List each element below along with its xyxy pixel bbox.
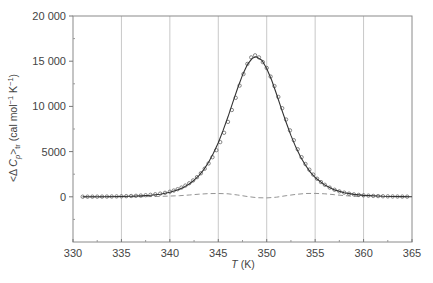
x-tick-label: 355 xyxy=(306,247,324,259)
y-axis-ticks: 0500010 00015 00020 000 xyxy=(32,10,75,219)
vertical-gridlines xyxy=(121,16,363,242)
x-tick-label: 330 xyxy=(64,247,82,259)
x-tick-label: 340 xyxy=(161,247,179,259)
y-tick-label: 20 000 xyxy=(32,10,66,22)
y-tick-label: 5000 xyxy=(42,146,66,158)
x-tick-label: 345 xyxy=(209,247,227,259)
x-tick-label: 360 xyxy=(354,247,372,259)
x-tick-label: 335 xyxy=(112,247,130,259)
x-tick-label: 350 xyxy=(258,247,276,259)
experimental-data-points xyxy=(81,54,409,199)
fit-solid-line xyxy=(83,57,412,197)
y-tick-label: 0 xyxy=(60,191,66,203)
y-tick-label: 15 000 xyxy=(32,55,66,67)
y-axis-label: <Δ Cp>tr (cal mol−1 K−1) xyxy=(6,74,22,182)
x-axis-label: T (K) xyxy=(231,258,254,270)
y-tick-label: 10 000 xyxy=(32,100,66,112)
dsc-chart: 330335340345350355360365 0500010 00015 0… xyxy=(0,0,433,283)
plot-frame xyxy=(73,16,412,242)
x-tick-label: 365 xyxy=(403,247,421,259)
